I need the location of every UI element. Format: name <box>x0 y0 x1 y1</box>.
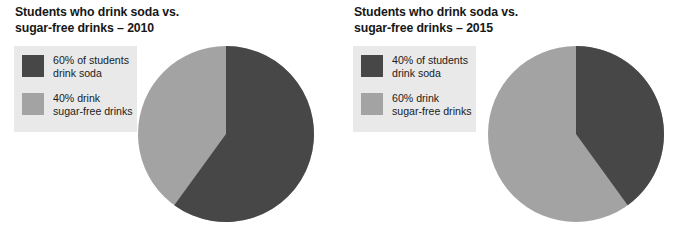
chart-title-line-2: sugar-free drinks – 2015 <box>354 21 569 37</box>
legend-label-soda-line-2: drink soda <box>392 67 468 80</box>
legend-2010: 60% of students drink soda 40% drink sug… <box>14 46 137 132</box>
chart-title-line-2: sugar-free drinks – 2010 <box>15 21 230 37</box>
legend-label-sugarfree: 60% drink sugar-free drinks <box>392 92 471 118</box>
legend-label-soda-line-2: drink soda <box>53 67 129 80</box>
legend-label-sugarfree-line-1: 40% drink <box>53 92 132 105</box>
legend-item-sugarfree: 60% drink sugar-free drinks <box>361 92 471 118</box>
legend-swatch-soda-icon <box>361 55 383 77</box>
legend-swatch-soda-icon <box>22 55 44 77</box>
chart-title-2010: Students who drink soda vs. sugar-free d… <box>15 5 230 36</box>
legend-label-sugarfree-line-1: 60% drink <box>392 92 471 105</box>
pie-svg-2015 <box>487 45 665 223</box>
legend-label-soda: 40% of students drink soda <box>392 54 468 80</box>
pie-chart-figure: Students who drink soda vs. sugar-free d… <box>0 0 677 228</box>
legend-label-soda: 60% of students drink soda <box>53 54 129 80</box>
pie-2015 <box>487 45 665 223</box>
chart-title-2015: Students who drink soda vs. sugar-free d… <box>354 5 569 36</box>
chart-panel-2015: Students who drink soda vs. sugar-free d… <box>339 0 677 228</box>
legend-swatch-sugarfree-icon <box>22 93 44 115</box>
legend-item-soda: 40% of students drink soda <box>361 54 468 80</box>
chart-panel-2010: Students who drink soda vs. sugar-free d… <box>0 0 338 228</box>
legend-2015: 40% of students drink soda 60% drink sug… <box>353 46 476 132</box>
legend-swatch-sugarfree-icon <box>361 93 383 115</box>
chart-title-line-1: Students who drink soda vs. <box>15 5 230 21</box>
legend-label-sugarfree-line-2: sugar-free drinks <box>392 105 471 118</box>
chart-title-line-1: Students who drink soda vs. <box>354 5 569 21</box>
legend-item-soda: 60% of students drink soda <box>22 54 129 80</box>
legend-label-soda-line-1: 60% of students <box>53 54 129 67</box>
legend-label-sugarfree: 40% drink sugar-free drinks <box>53 92 132 118</box>
legend-label-sugarfree-line-2: sugar-free drinks <box>53 105 132 118</box>
pie-2010 <box>137 45 315 223</box>
legend-label-soda-line-1: 40% of students <box>392 54 468 67</box>
pie-svg-2010 <box>137 45 315 223</box>
legend-item-sugarfree: 40% drink sugar-free drinks <box>22 92 132 118</box>
